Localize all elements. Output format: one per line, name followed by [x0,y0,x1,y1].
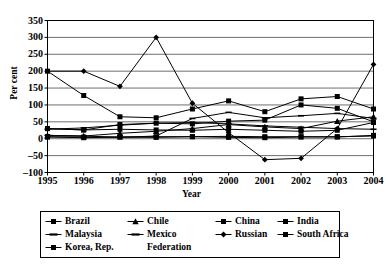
legend-label: Korea, Rep. [65,241,114,253]
x-tick-label: 2004 [354,175,388,186]
data-point-marker [81,68,87,74]
x-tick-label: 1999 [172,175,212,186]
data-point-marker [335,135,340,140]
x-tick-label: 1996 [64,175,104,186]
legend-marker-line-icon [127,228,144,240]
data-point-marker [299,135,304,140]
data-point-marker [226,119,231,124]
data-point-marker [81,93,86,98]
x-tick-label: 2000 [209,175,249,186]
legend-label: China [235,215,260,227]
legend-label-continuation: Federation [127,241,215,253]
data-point-marker [335,106,340,111]
series-line [48,112,374,137]
data-point-marker [371,106,376,111]
x-tick-label: 1995 [28,175,68,186]
data-point-marker [45,69,50,74]
legend-marker-square-icon [277,215,294,227]
legend-marker-triangle-icon [127,215,144,227]
legend-label: Mexico [147,228,177,240]
x-axis-title: Year [0,189,383,199]
legend-swatch [277,228,294,240]
legend-item-india[interactable]: India [277,215,337,227]
legend-grid: BrazilChileChinaIndiaMalaysiaMexicoRussi… [45,215,337,254]
legend-item-china[interactable]: China [215,215,277,227]
data-point-marker [335,94,340,99]
legend-label: South Africa [297,228,348,240]
legend-marker-square-icon [45,241,62,253]
legend-item-mexico[interactable]: Mexico [127,228,215,240]
data-point-marker [299,102,304,107]
legend-marker-line-icon [45,228,62,240]
data-point-marker [45,135,50,140]
legend-label: Russian [235,228,267,240]
legend-marker-square-icon [277,228,294,240]
legend-marker-square-icon [45,215,62,227]
data-point-marker [154,115,159,120]
data-point-marker [190,106,195,111]
legend-swatch [127,215,144,227]
legend-swatch [215,215,232,227]
data-point-marker [117,135,122,140]
data-point-marker [117,114,122,119]
legend-item-russian[interactable]: Russian [215,228,277,240]
series-line [48,71,374,118]
legend-label: India [297,215,319,227]
legend-marker-diamond-icon [215,228,232,240]
x-tick-label: 2002 [281,175,321,186]
data-point-marker [226,98,231,103]
legend-marker-square-icon [215,215,232,227]
x-tick-label: 2001 [245,175,285,186]
data-point-marker [190,134,195,139]
legend-label: Brazil [65,215,90,227]
legend-swatch [277,215,294,227]
legend-item-chile[interactable]: Chile [127,215,215,227]
data-point-marker [262,135,267,140]
x-tick-label: 1998 [136,175,176,186]
data-point-marker [154,135,159,140]
legend-swatch [127,228,144,240]
x-tick-label: 2003 [317,175,357,186]
legend-item-south-africa[interactable]: South Africa [277,228,337,240]
legend-item-korea-rep[interactable]: Korea, Rep. [45,241,127,253]
series-line [48,37,374,159]
data-point-marker [371,119,376,124]
series-russian-federation [45,34,377,162]
legend-swatch [45,228,62,240]
series-line [48,117,374,136]
legend-label: Malaysia [65,228,102,240]
data-point-marker [262,109,267,114]
data-point-marker [371,133,376,138]
series-malaysia [45,112,377,137]
x-tick-label: 1997 [100,175,140,186]
legend-item-brazil[interactable]: Brazil [45,215,127,227]
data-point-marker [371,62,377,68]
legend-label: Chile [147,215,169,227]
legend-swatch [45,215,62,227]
legend-swatch [45,241,62,253]
plot-frame [48,21,374,173]
legend-item-malaysia[interactable]: Malaysia [45,228,127,240]
data-point-marker [226,135,231,140]
legend: BrazilChileChinaIndiaMalaysiaMexicoRussi… [40,211,340,258]
data-point-marker [81,135,86,140]
legend-swatch [215,228,232,240]
data-point-marker [299,96,304,101]
series-korea-rep [45,69,376,121]
